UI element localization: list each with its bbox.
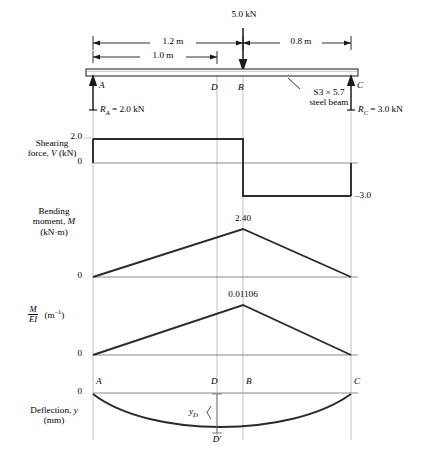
deflection-curve xyxy=(93,394,351,427)
deflection-axis-label: Deflection, y (mm) xyxy=(10,405,98,426)
beam-member xyxy=(86,69,358,76)
shear-value-right: –3.0 xyxy=(355,190,371,200)
reaction-c-subscript: C xyxy=(364,109,368,116)
mei-tick-label-0: 0 xyxy=(58,348,82,358)
reaction-a-value: = 2.0 kN xyxy=(112,104,145,114)
shear-curve xyxy=(93,139,351,196)
mei-units: (m–1) xyxy=(40,308,64,320)
moment-axis-line1: Bending xyxy=(38,206,69,216)
moment-curve xyxy=(93,229,351,277)
node-label-a-beam: A xyxy=(99,80,105,90)
shear-force-diagram xyxy=(84,138,358,196)
beam-designation-line1: S3 × 5.7 xyxy=(314,87,345,97)
mei-denominator: EI xyxy=(28,315,38,324)
mei-axis-label: M EI (m–1) xyxy=(28,305,64,324)
moment-axis-line2: moment, M xyxy=(33,216,75,226)
node-label-d-beam: D xyxy=(211,82,218,92)
reaction-a-subscript: A xyxy=(106,109,110,116)
dimension-1-0m-label: 1.0 m xyxy=(133,50,193,60)
node-label-b-deflection: B xyxy=(246,376,252,386)
station-gridlines xyxy=(93,76,351,440)
dimension-1-2m-label: 1.2 m xyxy=(143,36,203,46)
deflection-axis-line2: (mm) xyxy=(44,415,64,425)
mei-diagram xyxy=(93,305,358,355)
deflection-tick-label-0: 0 xyxy=(58,386,82,396)
deflection-diagram xyxy=(93,393,358,433)
mei-fraction: M EI xyxy=(28,305,38,324)
mei-curve xyxy=(93,305,351,355)
moment-peak-label: 2.40 xyxy=(218,213,268,223)
deflection-yd-subscript: D xyxy=(193,411,198,418)
point-load-arrow xyxy=(239,28,248,72)
beam-designation-label: S3 × 5.7 steel beam xyxy=(291,87,367,108)
node-label-b-beam: B xyxy=(238,82,244,92)
reaction-label-a: RA = 2.0 kN xyxy=(100,104,144,116)
moment-tick-label-0: 0 xyxy=(58,270,82,280)
deflection-brace xyxy=(207,406,211,419)
figure-caption-cropped xyxy=(0,454,421,462)
node-label-d-deflection: D xyxy=(211,376,218,386)
shear-tick-label-2: 2.0 xyxy=(58,131,82,141)
bending-moment-diagram xyxy=(93,229,358,277)
shear-tick-label-0: 0 xyxy=(58,156,82,166)
deflection-axis-line1: Deflection, y xyxy=(30,405,77,415)
mei-peak-label: 0.01106 xyxy=(211,289,275,299)
node-label-c-deflection: C xyxy=(354,376,360,386)
dimension-0-8m-label: 0.8 m xyxy=(272,36,330,46)
point-load-label: 5.0 kN xyxy=(219,9,269,19)
node-label-a-deflection: A xyxy=(96,376,102,386)
moment-axis-line3: (kN·m) xyxy=(40,227,68,237)
reaction-arrow-a xyxy=(89,74,97,110)
moment-axis-label: Bending moment, M (kN·m) xyxy=(13,206,95,237)
node-label-d-prime: D′ xyxy=(200,434,234,444)
beam-designation-line2: steel beam xyxy=(309,97,348,107)
reaction-c-value: = 3.0 kN xyxy=(370,104,403,114)
deflection-yd-label: yD xyxy=(189,406,198,418)
